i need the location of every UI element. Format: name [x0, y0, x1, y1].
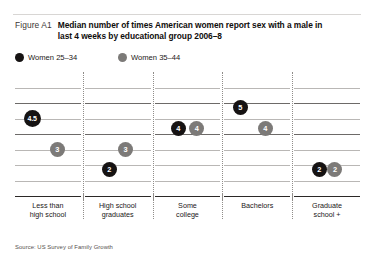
data-point-dot: 4: [171, 121, 186, 136]
legend-item-women-35-44: Women 35–44: [118, 50, 180, 64]
category-label-line2: school +: [294, 210, 360, 219]
page-title: Median number of times American women re…: [58, 20, 330, 43]
gridline: [224, 165, 290, 166]
legend-label: Women 35–44: [131, 53, 180, 62]
gridline: [155, 134, 221, 135]
gridline: [85, 181, 151, 182]
axis-rule: [224, 196, 290, 197]
gridline: [224, 119, 290, 120]
axis-rule: [85, 196, 151, 197]
legend-item-women-25-34: Women 25–34: [15, 50, 77, 64]
category-label-line2: high school: [15, 210, 81, 219]
gridline: [155, 103, 221, 104]
gridline: [294, 103, 360, 104]
gridline: [294, 88, 360, 89]
category-label-line2: college: [155, 210, 221, 219]
legend-dot-icon: [118, 53, 127, 62]
gridline: [85, 88, 151, 89]
gridline: [85, 165, 151, 166]
category-label-line1: Graduate: [294, 201, 360, 210]
source-note: Source: US Survey of Family Growth: [15, 243, 113, 251]
gridline: [155, 150, 221, 151]
gridline: [155, 165, 221, 166]
chart-legend: Women 25–34Women 35–44: [15, 50, 355, 64]
gridline: [15, 103, 81, 104]
data-point-dot: 3: [50, 142, 65, 157]
axis-rule: [294, 196, 360, 197]
gridline: [224, 88, 290, 89]
plot-area: 4.5332445422: [15, 72, 360, 196]
gridline: [294, 119, 360, 120]
gridline: [224, 134, 290, 135]
figure-number-label: Figure A1: [15, 20, 52, 31]
data-point-dot: 2: [327, 162, 342, 177]
data-point-dot: 5: [233, 100, 248, 115]
chart-panel: 32: [85, 72, 151, 196]
axis-rule: [15, 196, 81, 197]
gridline: [155, 181, 221, 182]
gridline: [15, 88, 81, 89]
category-label: High schoolgraduates: [85, 201, 151, 220]
legend-label: Women 25–34: [28, 53, 77, 62]
top-divider-rule: [13, 14, 361, 15]
gridline: [15, 165, 81, 166]
category-label-line1: High school: [85, 201, 151, 210]
category-label-line1: Less than: [15, 201, 81, 210]
data-point-dot: 3: [118, 142, 133, 157]
gridline: [155, 119, 221, 120]
gridline: [85, 103, 151, 104]
gridline: [15, 150, 81, 151]
category-axis: Less thanhigh schoolHigh schoolgraduates…: [15, 196, 360, 236]
gridline: [294, 150, 360, 151]
data-point-dot: 2: [312, 162, 327, 177]
axis-rule: [155, 196, 221, 197]
gridline: [15, 181, 81, 182]
category-label-line1: Some: [155, 201, 221, 210]
data-point-dot: 2: [102, 162, 117, 177]
figure-container: Figure A1 Median number of times America…: [0, 0, 372, 265]
chart-panel: 4.53: [15, 72, 81, 196]
category-label: Graduateschool +: [294, 201, 360, 220]
data-point-dot: 4: [258, 121, 273, 136]
figure-title-block: Figure A1 Median number of times America…: [15, 20, 363, 43]
gridline: [85, 134, 151, 135]
category-label: Somecollege: [155, 201, 221, 220]
gridline: [85, 119, 151, 120]
category-label-line2: graduates: [85, 210, 151, 219]
chart-panel: 44: [155, 72, 221, 196]
data-point-dot: 4.5: [24, 110, 41, 127]
gridline: [294, 181, 360, 182]
category-label: Bachelors: [224, 201, 290, 210]
gridline: [224, 150, 290, 151]
category-label: Less thanhigh school: [15, 201, 81, 220]
gridline: [294, 134, 360, 135]
gridline: [15, 134, 81, 135]
chart-panel: 54: [224, 72, 290, 196]
category-label-line1: Bachelors: [224, 201, 290, 210]
gridline: [224, 181, 290, 182]
legend-dot-icon: [15, 53, 24, 62]
gridline: [155, 88, 221, 89]
chart-panel: 22: [294, 72, 360, 196]
